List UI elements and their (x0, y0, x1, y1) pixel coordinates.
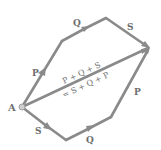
vector-diagram: A P Q S S Q P P + Q + S = S + Q + P (0, 0, 161, 150)
label-bottom-p: P (134, 87, 141, 97)
label-bottom-q: Q (86, 135, 94, 145)
label-top-q: Q (73, 18, 81, 28)
label-point-a: A (7, 102, 16, 113)
label-top-p: P (32, 68, 39, 78)
labels-layer: A P Q S S Q P P + Q + S = S + Q + P (0, 0, 161, 150)
label-top-s: S (127, 22, 134, 32)
label-bottom-s: S (35, 126, 42, 136)
